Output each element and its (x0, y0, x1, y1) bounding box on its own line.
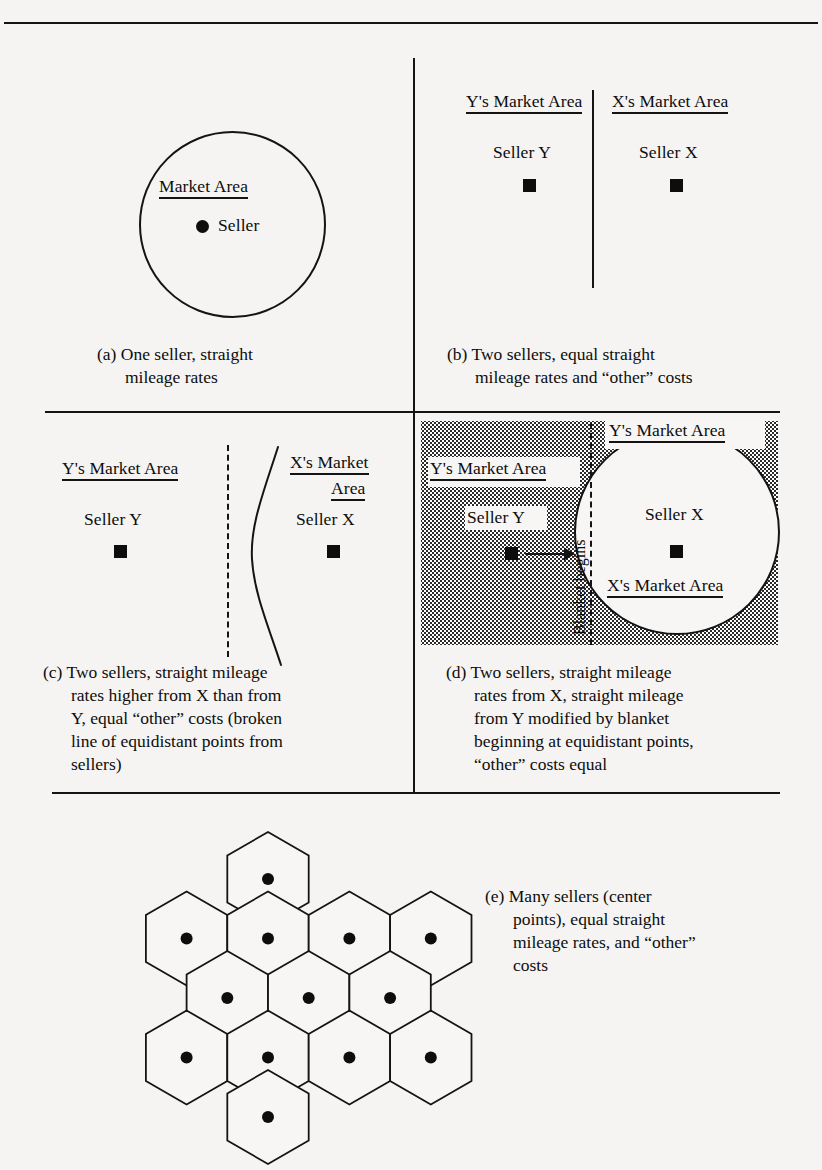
panel-e-caption-line-2: points), equal straight (502, 908, 812, 931)
panel-c-curve-path (252, 447, 281, 665)
seller-center-dot (425, 1052, 437, 1064)
panel-d-y-market-area-left-label: Y's Market Area (430, 459, 546, 481)
panel-b: Y's Market Area X's Market Area Seller Y… (413, 30, 822, 411)
panel-c-caption: (c) Two sellers, straight mileage rates … (43, 661, 430, 776)
panel-d-caption-line-2: rates from X, straight mileage (463, 684, 822, 707)
panel-d-caption: (d) Two sellers, straight mileage rates … (446, 661, 822, 776)
panel-e: (e) Many sellers (center points), equal … (0, 800, 822, 1170)
seller-center-dot (343, 1052, 355, 1064)
panel-e-caption-line-4: costs (502, 954, 812, 977)
top-border-rule (4, 22, 818, 24)
panel-d: Y's Market Area Y's Market Area Seller Y… (413, 413, 822, 792)
panel-a-seller-label: Seller (218, 216, 259, 234)
panel-c-seller-y-square (114, 545, 127, 558)
panel-b-seller-x-label: Seller X (639, 143, 698, 161)
panel-c-seller-x-square (327, 545, 340, 558)
panel-d-seller-x-label: Seller X (645, 505, 704, 523)
panel-a-seller-dot (196, 220, 209, 233)
panel-d-y-market-area-top-label: Y's Market Area (609, 421, 725, 443)
panel-d-caption-line-4: beginning at equidistant points, (463, 730, 822, 753)
panel-d-blanket-begins-label: Blanket begins (571, 539, 589, 635)
panel-a-caption: (a) One seller, straight mileage rates (97, 343, 404, 389)
panel-c-caption-line-4: line of equidistant points from (60, 730, 430, 753)
panel-b-caption-line-2: mileage rates and “other” costs (464, 366, 822, 389)
panel-e-caption: (e) Many sellers (center points), equal … (485, 885, 812, 977)
panel-c-y-market-area-label: Y's Market Area (62, 459, 178, 481)
panel-b-caption-line-1: (b) Two sellers, equal straight (464, 343, 822, 366)
panel-d-caption-line-1: (d) Two sellers, straight mileage (463, 661, 822, 684)
panel-d-caption-line-5: “other” costs equal (463, 753, 822, 776)
panel-c-equidistant-dashed-line (227, 445, 229, 657)
panel-b-caption: (b) Two sellers, equal straight mileage … (447, 343, 822, 389)
seller-center-dot (303, 992, 315, 1004)
panel-c: Y's Market Area X's Market Area Seller Y… (0, 413, 413, 792)
panel-c-seller-x-label: Seller X (296, 510, 355, 528)
panel-a-caption-line-2: mileage rates (114, 366, 404, 389)
panel-d-blanket-dashed-line (590, 423, 592, 645)
panel-e-hexagon-tessellation (60, 800, 480, 1170)
seller-center-dot (181, 1052, 193, 1064)
panel-d-seller-x-square (670, 545, 683, 558)
seller-center-dot (262, 1111, 274, 1123)
seller-center-dot (384, 992, 396, 1004)
panel-c-caption-line-1: (c) Two sellers, straight mileage (60, 661, 430, 684)
seller-center-dot (262, 933, 274, 945)
panel-b-x-market-area-label: X's Market Area (612, 92, 728, 114)
panel-c-caption-line-2: rates higher from X than from (60, 684, 430, 707)
panel-c-caption-line-5: sellers) (60, 753, 430, 776)
panel-d-x-market-area-label: X's Market Area (607, 576, 723, 598)
panel-b-y-market-area-label: Y's Market Area (466, 92, 582, 114)
panel-b-seller-y-square (523, 179, 536, 192)
panel-c-seller-y-label: Seller Y (84, 510, 142, 528)
panel-c-caption-line-3: Y, equal “other” costs (broken (60, 707, 430, 730)
panel-d-x-market-circle (574, 429, 780, 635)
seller-center-dot (181, 933, 193, 945)
panel-c-x-market-area-label-line1: X's Market (290, 453, 369, 475)
seller-center-dot (425, 933, 437, 945)
panel-b-boundary-line (592, 90, 594, 288)
seller-center-dot (262, 1052, 274, 1064)
panel-b-seller-y-label: Seller Y (493, 143, 551, 161)
panel-a-caption-line-1: (a) One seller, straight (114, 343, 404, 366)
seller-center-dot (221, 992, 233, 1004)
panel-c-x-market-area-label-line2: Area (331, 479, 365, 501)
panel-e-caption-line-3: mileage rates, and “other” (502, 931, 812, 954)
panel-d-seller-y-square (505, 547, 518, 560)
figure-root: Market Area Seller (a) One seller, strai… (0, 0, 822, 1170)
panel-d-caption-line-3: from Y modified by blanket (463, 707, 822, 730)
seller-center-dot (262, 873, 274, 885)
panel-a-market-area-label: Market Area (159, 177, 248, 199)
panel-a: Market Area Seller (a) One seller, strai… (0, 30, 413, 411)
seller-center-dot (343, 933, 355, 945)
panel-b-seller-x-square (670, 179, 683, 192)
panel-e-caption-line-1: (e) Many sellers (center (502, 885, 812, 908)
panel-d-seller-y-label: Seller Y (467, 508, 525, 526)
bottom-border-rule (52, 792, 780, 794)
